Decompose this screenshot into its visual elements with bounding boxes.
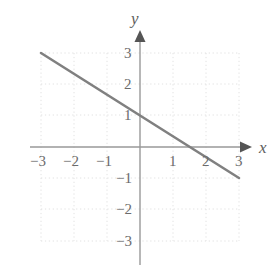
y-tick-label-pos-1: 1 [124, 108, 132, 123]
y-tick-label-pos-3: 3 [124, 46, 132, 61]
x-tick-label-pos-2: 2 [202, 154, 210, 169]
x-tick-label-neg-3: −3 [30, 154, 46, 169]
y-tick-label-neg-1: −1 [116, 171, 132, 186]
arrow-right-icon [240, 142, 252, 153]
y-axis-label: y [131, 10, 139, 27]
x-tick-label-neg-2: −2 [63, 154, 79, 169]
arrow-up-icon [135, 30, 146, 42]
x-axis [30, 142, 252, 153]
x-tick-label-pos-1: 1 [169, 154, 177, 169]
y-tick-label-neg-2: −2 [116, 202, 132, 217]
coordinate-graph-figure: −3 −2 −1 1 2 3 3 2 1 −1 −2 −3 y x [0, 0, 280, 273]
y-tick-label-pos-2: 2 [124, 77, 132, 92]
y-tick-label-neg-3: −3 [116, 234, 132, 249]
x-tick-label-neg-1: −1 [96, 154, 112, 169]
x-tick-label-pos-3: 3 [235, 154, 243, 169]
x-axis-label: x [259, 139, 267, 156]
plot-area [0, 0, 280, 273]
